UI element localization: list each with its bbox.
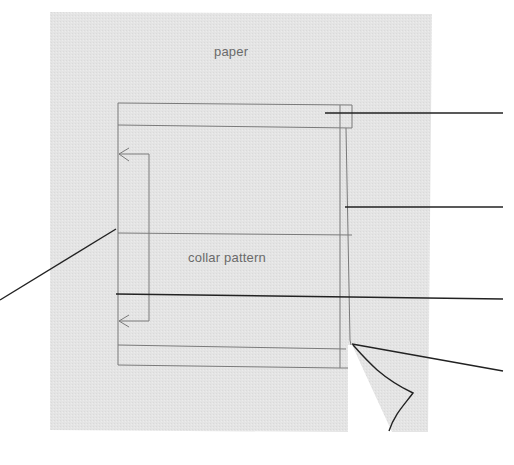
collar-pattern-label: collar pattern xyxy=(188,250,266,265)
collar-pattern-diagram: paper collar pattern xyxy=(0,0,514,465)
diagram-canvas xyxy=(0,0,514,465)
paper-sheet xyxy=(50,12,432,432)
paper-label: paper xyxy=(214,44,248,59)
